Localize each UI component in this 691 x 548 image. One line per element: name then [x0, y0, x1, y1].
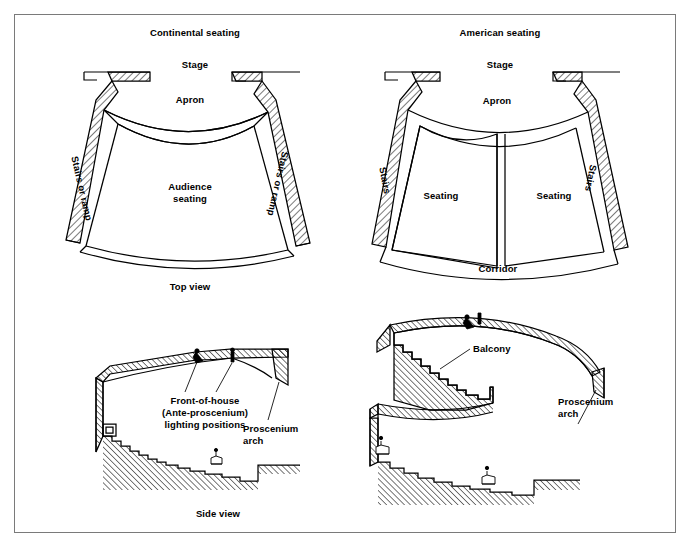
continental-apron-label: Apron [176, 94, 204, 106]
balcony-label: Balcony [473, 343, 511, 355]
american-proscenium-label-line1: Proscenium [558, 396, 613, 408]
continental-stage-label: Stage [182, 59, 208, 71]
figure-border [14, 14, 676, 533]
american-seating-label-right: Seating [536, 190, 571, 202]
continental-title: Continental seating [150, 27, 240, 39]
audience-seating-label-line2: seating [173, 193, 207, 205]
figure-canvas: Continental seating Stage Apron Audience… [0, 0, 691, 548]
foh-lighting-label-line1: Front-of-house [137, 395, 273, 407]
top-view-caption: Top view [170, 281, 211, 293]
american-proscenium-label-line2: arch [558, 408, 578, 420]
continental-proscenium-label-line1: Proscenium [243, 423, 298, 435]
audience-seating-label-line1: Audience [168, 181, 212, 193]
american-apron-label: Apron [483, 95, 511, 107]
continental-proscenium-label-line2: arch [243, 435, 263, 447]
american-stage-label: Stage [487, 59, 513, 71]
foh-lighting-label-line2: (Ante-proscenium) [137, 407, 273, 419]
american-seating-label-left: Seating [423, 190, 458, 202]
corridor-label: Corridor [479, 263, 518, 275]
side-view-caption: Side view [196, 508, 240, 520]
american-title: American seating [460, 27, 541, 39]
